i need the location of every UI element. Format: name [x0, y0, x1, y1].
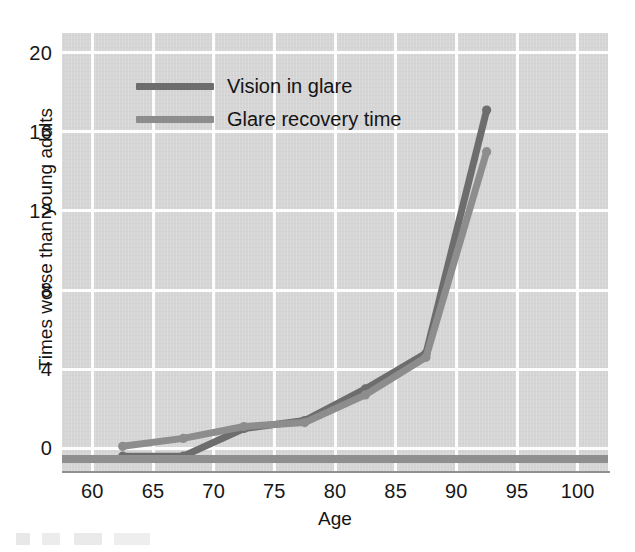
data-point-marker [482, 106, 491, 115]
x-axis-title: Age [62, 508, 608, 530]
data-point-marker [421, 353, 430, 362]
scan-artifact [16, 533, 166, 545]
x-tick-label: 60 [62, 481, 122, 501]
x-axis-spine [62, 471, 610, 473]
legend-item-vision-in-glare: Vision in glare [136, 74, 402, 98]
series-line-glare-recovery-time [123, 152, 487, 447]
data-point-marker [118, 442, 127, 451]
data-point-marker [300, 418, 309, 427]
legend-label-glare-recovery-time: Glare recovery time [227, 108, 402, 130]
x-tick-label: 70 [184, 481, 244, 501]
series-line-vision-in-glare [123, 110, 487, 456]
y-tick-label: 0 [6, 438, 52, 458]
data-point-marker [179, 434, 188, 443]
x-tick-label: 75 [244, 481, 304, 501]
data-point-marker [239, 422, 248, 431]
x-tick-label: 80 [305, 481, 365, 501]
x-tick-label: 100 [548, 481, 608, 501]
data-point-marker [482, 147, 491, 156]
x-tick-label: 65 [123, 481, 183, 501]
baseline-rule [62, 455, 608, 463]
x-tick-label: 90 [426, 481, 486, 501]
x-tick-label: 85 [366, 481, 426, 501]
legend-item-glare-recovery-time: Glare recovery time [136, 107, 402, 131]
x-tick-label: 95 [487, 481, 547, 501]
legend-swatch-icon-glare-recovery-time [136, 116, 214, 123]
legend-swatch-icon-vision-in-glare [136, 83, 214, 90]
chart-figure: 048121620 6065707580859095100 Times wors… [0, 0, 635, 552]
data-point-marker [361, 390, 370, 399]
legend-label-vision-in-glare: Vision in glare [227, 75, 352, 97]
y-axis-title: Times worse than young adults [35, 39, 57, 439]
chart-legend: Vision in glare Glare recovery time [136, 74, 402, 131]
